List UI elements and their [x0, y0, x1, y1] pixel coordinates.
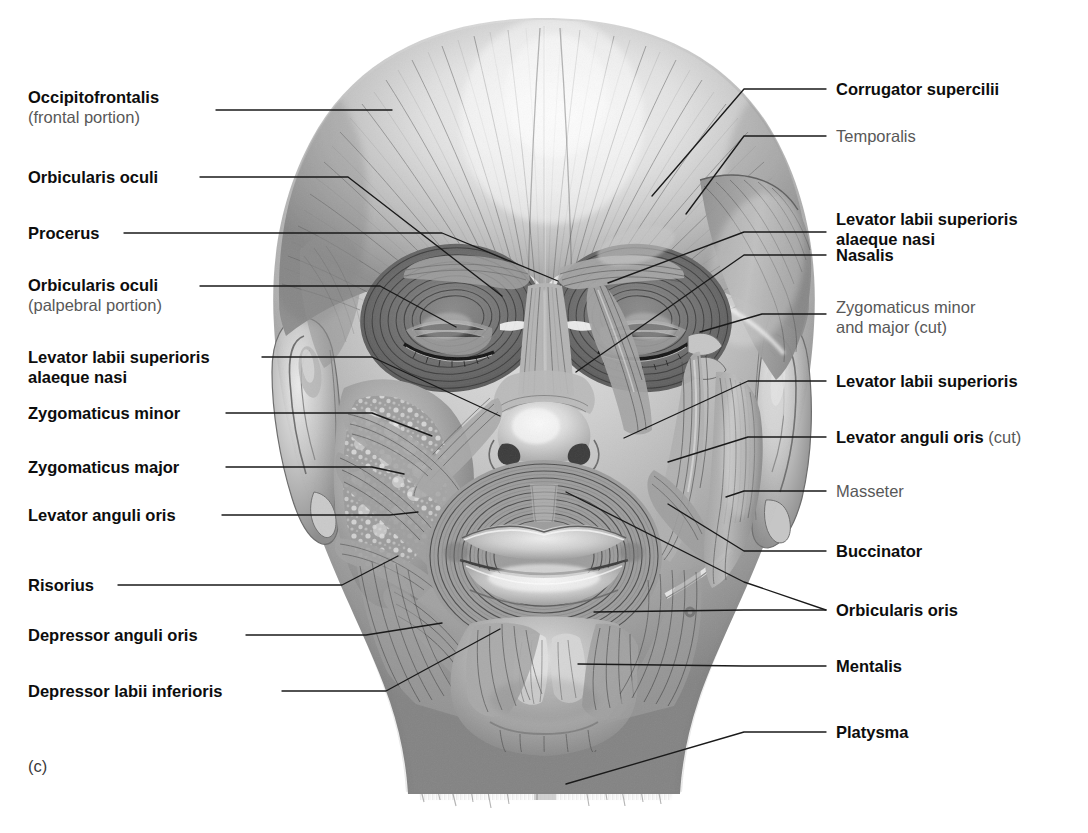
label-text: Depressor anguli oris: [28, 626, 198, 644]
label-text: Nasalis: [836, 246, 894, 264]
label-text: Masseter: [836, 482, 904, 500]
label-levator-labii-superioris-right[interactable]: Levator labii superioris: [836, 372, 1018, 392]
label-buccinator[interactable]: Buccinator: [836, 542, 922, 562]
label-text: Platysma: [836, 723, 908, 741]
label-nasalis[interactable]: Nasalis: [836, 246, 894, 266]
label-depressor-anguli-oris[interactable]: Depressor anguli oris: [28, 626, 198, 646]
label-levator-labii-superioris-alaeque-nasi-right[interactable]: Levator labii superiorisalaeque nasi: [836, 210, 1018, 249]
label-orbicularis-oculi-palpebral[interactable]: Orbicularis oculi(palpebral portion): [28, 276, 162, 315]
label-masseter[interactable]: Masseter: [836, 482, 904, 502]
figure-caption-letter: (c): [28, 757, 47, 776]
label-risorius[interactable]: Risorius: [28, 576, 94, 596]
label-depressor-labii-inferioris[interactable]: Depressor labii inferioris: [28, 682, 222, 702]
label-text: Temporalis: [836, 127, 916, 145]
label-text: Risorius: [28, 576, 94, 594]
label-corrugator-supercilii[interactable]: Corrugator supercilii: [836, 80, 999, 100]
label-platysma[interactable]: Platysma: [836, 723, 908, 743]
label-text: Levator labii superioris: [836, 210, 1018, 228]
label-text: Zygomaticus minor: [28, 404, 180, 422]
label-subtext: (palpebral portion): [28, 296, 162, 316]
label-subtext: and major (cut): [836, 318, 975, 338]
label-temporalis[interactable]: Temporalis: [836, 127, 916, 147]
chin-group: [451, 617, 639, 759]
facial-muscles-figure: Occipitofrontalis(frontal portion)Orbicu…: [0, 0, 1088, 833]
label-zygomaticus-major-left[interactable]: Zygomaticus major: [28, 458, 179, 478]
label-zygomaticus-minor-major-cut[interactable]: Zygomaticus minorand major (cut): [836, 298, 975, 337]
label-orbicularis-oculi[interactable]: Orbicularis oculi: [28, 168, 158, 188]
label-mentalis[interactable]: Mentalis: [836, 657, 902, 677]
label-text: Levator labii superioris: [28, 348, 210, 366]
label-text: Zygomaticus major: [28, 458, 179, 476]
label-text: Zygomaticus minor: [836, 298, 975, 316]
label-subtext: alaeque nasi: [28, 368, 210, 388]
label-levator-labii-superioris-alaeque-nasi-left[interactable]: Levator labii superiorisalaeque nasi: [28, 348, 210, 387]
label-zygomaticus-minor-left[interactable]: Zygomaticus minor: [28, 404, 180, 424]
label-text: Buccinator: [836, 542, 922, 560]
label-text: Depressor labii inferioris: [28, 682, 222, 700]
label-text: Occipitofrontalis: [28, 88, 159, 106]
label-orbicularis-oris[interactable]: Orbicularis oris: [836, 601, 958, 621]
label-occipitofrontalis[interactable]: Occipitofrontalis(frontal portion): [28, 88, 159, 127]
label-levator-anguli-oris-cut[interactable]: Levator anguli oris (cut): [836, 428, 1021, 448]
label-levator-anguli-oris-left[interactable]: Levator anguli oris: [28, 506, 176, 526]
label-text: Procerus: [28, 224, 100, 242]
label-cut-suffix: (cut): [984, 428, 1022, 446]
label-text: Levator labii superioris: [836, 372, 1018, 390]
label-text: Levator anguli oris: [28, 506, 176, 524]
label-procerus[interactable]: Procerus: [28, 224, 100, 244]
label-text: Corrugator supercilii: [836, 80, 999, 98]
label-text: Levator anguli oris: [836, 428, 984, 446]
label-text: Orbicularis oculi: [28, 168, 158, 186]
label-text: Mentalis: [836, 657, 902, 675]
label-text: Orbicularis oris: [836, 601, 958, 619]
label-text: Orbicularis oculi: [28, 276, 158, 294]
label-subtext: (frontal portion): [28, 108, 159, 128]
